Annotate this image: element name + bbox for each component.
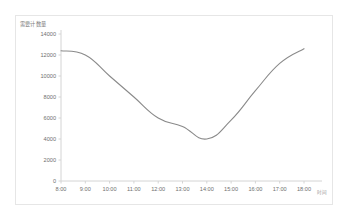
x-axis-tick-label: 9:00 (80, 186, 91, 192)
chart-series (61, 49, 304, 139)
chart-axes (59, 30, 323, 184)
chart-card: 需要计数量 时间 0200040006000800010000120001400… (15, 15, 333, 205)
x-axis-tick-label: 12:00 (151, 186, 165, 192)
x-axis-tick-label: 11:00 (127, 186, 141, 192)
x-axis-tick-label: 16:00 (248, 186, 262, 192)
y-axis-tick-label: 14000 (16, 31, 56, 37)
y-axis-tick-label: 2000 (16, 157, 56, 163)
x-axis-tick-label: 18:00 (297, 186, 311, 192)
x-axis-tick-label: 17:00 (273, 186, 287, 192)
y-axis-tick-label: 4000 (16, 136, 56, 142)
line-chart-svg (16, 16, 334, 206)
x-axis-tick-label: 10:00 (103, 186, 117, 192)
chart-plot-area: 需要计数量 时间 0200040006000800010000120001400… (16, 16, 332, 204)
y-axis-tick-label: 8000 (16, 94, 56, 100)
y-axis-tick-label: 12000 (16, 52, 56, 58)
y-axis-tick-label: 6000 (16, 115, 56, 121)
x-axis-tick-label: 15:00 (224, 186, 238, 192)
x-axis-tick-label: 13:00 (176, 186, 190, 192)
y-axis-tick-label: 0 (16, 178, 56, 184)
y-axis-tick-label: 10000 (16, 73, 56, 79)
data-line (61, 49, 304, 139)
x-axis-tick-label: 8:00 (56, 186, 67, 192)
x-axis-tick-label: 14:00 (200, 186, 214, 192)
